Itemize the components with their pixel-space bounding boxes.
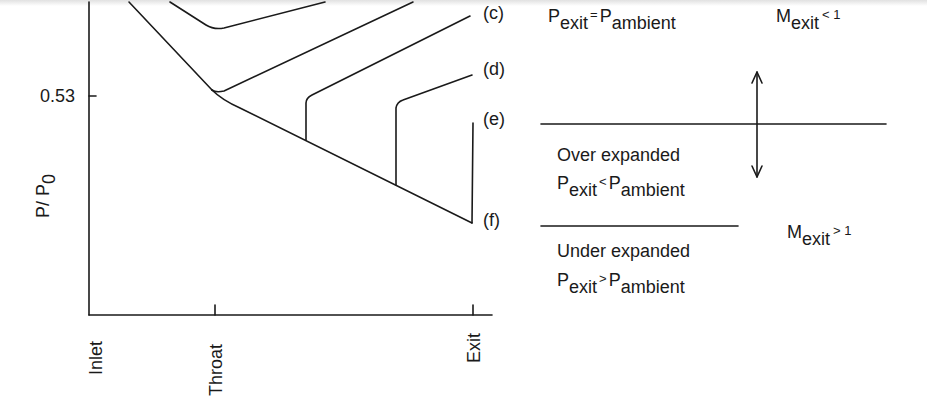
matched-expansion-condition: Pexit=Pambient — [548, 7, 676, 25]
under-expanded-title: Under expanded — [557, 242, 690, 260]
curve-label-e: (e) — [483, 110, 505, 128]
symbol-m: M — [776, 6, 791, 26]
under-expanded-condition: Pexit>Pambient — [557, 271, 685, 289]
y-axis-label-sub: 0 — [39, 174, 59, 184]
curve-label-d: (d) — [483, 60, 505, 78]
symbol-p: P — [609, 173, 621, 193]
symbol-p: P — [609, 270, 621, 290]
symbol-p: P — [557, 173, 569, 193]
curve-e — [472, 123, 473, 223]
x-label-throat: Throat — [207, 344, 225, 396]
sub-exit: exit — [802, 229, 830, 249]
curve-b — [212, 2, 413, 92]
y-axis-label: P/ P0 — [34, 174, 52, 218]
sub-ambient: ambient — [621, 277, 685, 297]
x-label-inlet: Inlet — [87, 341, 105, 375]
sub-exit: exit — [560, 13, 588, 33]
y-axis-label-main: P/ P — [33, 184, 53, 218]
curve-a — [170, 2, 325, 29]
y-tick-label: 0.53 — [40, 87, 75, 105]
over-expanded-condition: Pexit<Pambient — [557, 174, 685, 192]
sub-exit: exit — [569, 180, 597, 200]
curve-label-c: (c) — [483, 4, 504, 22]
x-label-exit: Exit — [465, 333, 483, 363]
sub-ambient: ambient — [612, 13, 676, 33]
over-expanded-title: Over expanded — [557, 146, 680, 164]
curve-c — [306, 16, 470, 140]
sub-ambient: ambient — [621, 180, 685, 200]
curve-converging-section — [129, 2, 212, 90]
operator: < — [599, 174, 607, 189]
symbol-m: M — [787, 222, 802, 242]
sub-exit: exit — [791, 13, 819, 33]
relation: < 1 — [822, 7, 840, 22]
mach-subsonic-condition: Mexit< 1 — [776, 7, 842, 25]
operator: > — [599, 271, 607, 286]
symbol-p: P — [600, 6, 612, 26]
mach-supersonic-condition: Mexit> 1 — [787, 223, 853, 241]
curve-label-f: (f) — [483, 211, 500, 229]
curve-f — [212, 90, 472, 223]
curve-d — [396, 75, 472, 185]
operator: = — [590, 7, 598, 22]
symbol-p: P — [548, 6, 560, 26]
symbol-p: P — [557, 270, 569, 290]
sub-exit: exit — [569, 277, 597, 297]
relation: > 1 — [833, 223, 851, 238]
